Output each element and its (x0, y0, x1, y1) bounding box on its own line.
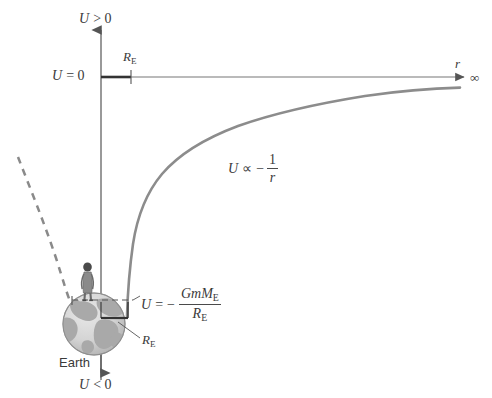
earth-globe (59, 293, 125, 355)
u-zero-symbol: U (52, 68, 62, 83)
u-negative-relation: < 0 (93, 377, 111, 392)
curve-equation-fraction: 1 r (267, 152, 278, 185)
u-positive-symbol: U (79, 11, 89, 26)
surface-potential-numerator-symbols: GmM (181, 286, 213, 301)
u-negative-symbol: U (79, 377, 89, 392)
curve-equation-denominator: r (267, 169, 278, 185)
surface-potential-denominator: RE (179, 305, 221, 323)
axis-radius-label: RE (123, 50, 137, 66)
surface-potential-fraction: GmME RE (179, 286, 221, 324)
distance-axis (101, 70, 464, 84)
curve-equation-label: U∝− 1 r (228, 152, 278, 185)
surface-potential-numerator-subscript: E (213, 292, 219, 303)
axis-radius-subscript: E (131, 56, 137, 66)
earth-radius-subscript: E (150, 339, 156, 349)
curve-equation-numerator: 1 (267, 152, 278, 169)
surface-formula-leader-line (133, 296, 140, 300)
surface-potential-denominator-symbol: R (193, 306, 202, 321)
curve-equation-symbol: U (228, 161, 238, 176)
infinity-label: ∞ (470, 71, 479, 84)
figure-canvas (0, 0, 492, 398)
u-zero-label: U= 0 (52, 69, 85, 83)
axis-radius-symbol: R (123, 49, 131, 64)
distance-axis-label: r (455, 57, 460, 70)
u-positive-relation: > 0 (93, 11, 111, 26)
curve-equation-sign: − (256, 161, 264, 176)
earth-label: Earth (59, 356, 90, 369)
surface-potential-sign: − (167, 297, 175, 312)
earth-radius-callout-label: RE (142, 333, 156, 349)
surface-potential-label: U=− GmME RE (141, 286, 221, 324)
u-negative-label: U< 0 (79, 378, 112, 392)
earth-radius-symbol: R (142, 332, 150, 347)
surface-potential-relation: = (155, 297, 163, 312)
surface-potential-symbol: U (141, 297, 151, 312)
surface-potential-numerator: GmME (179, 286, 221, 305)
mirror-branch-dashed-curve (18, 157, 70, 301)
surface-potential-denominator-subscript: E (201, 312, 207, 323)
gravitational-potential-energy-figure: U> 0 U= 0 RE r ∞ U∝− 1 r U=− GmME RE RE … (0, 0, 492, 398)
curve-equation-relation: ∝ (242, 161, 252, 176)
u-positive-label: U> 0 (79, 12, 112, 26)
potential-energy-curve (127, 88, 460, 316)
u-zero-relation: = 0 (66, 68, 84, 83)
